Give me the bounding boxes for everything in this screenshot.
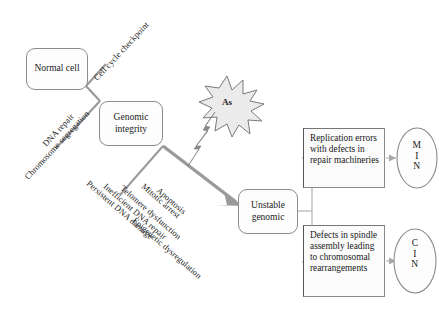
node-genomic-integrity: Genomic integrity (99, 101, 163, 146)
node-replication-errors: Replication errors with defects in repai… (303, 128, 385, 188)
cin-letter-1: C (395, 238, 435, 249)
connector-normal-to-genomic (86, 86, 100, 101)
diagram-canvas: Normal cell Genomic integrity Unstable g… (0, 0, 439, 314)
node-unstable-genomic-label: Unstable genomic (239, 200, 297, 222)
outcome-min-label: M I N (397, 140, 437, 172)
cin-letter-2: I (395, 249, 435, 260)
node-replication-errors-label: Replication errors with defects in repai… (310, 133, 379, 166)
node-unstable-genomic: Unstable genomic (238, 189, 298, 234)
node-genomic-integrity-label: Genomic integrity (100, 112, 162, 134)
outcome-cin-label: C I N (395, 238, 435, 270)
node-normal-cell-label: Normal cell (34, 63, 79, 74)
lightning-bolt-icon (188, 112, 215, 166)
node-spindle-defects: Defects in spindle assembly leading to c… (303, 225, 385, 297)
min-letter-3: N (397, 161, 437, 172)
node-spindle-defects-label: Defects in spindle assembly leading to c… (310, 230, 379, 274)
node-normal-cell: Normal cell (26, 48, 88, 90)
min-letter-2: I (397, 151, 437, 162)
stressor-as-label: As (212, 97, 242, 107)
cin-letter-3: N (395, 259, 435, 270)
min-letter-1: M (397, 140, 437, 151)
